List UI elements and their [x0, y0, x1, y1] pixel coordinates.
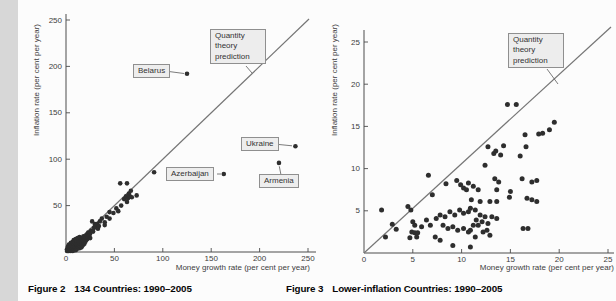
figure3-data-point	[473, 234, 478, 239]
figure3-data-point	[489, 214, 494, 219]
figure3-data-point	[438, 238, 443, 243]
figure3-data-point	[534, 178, 539, 183]
figure3-data-point	[468, 206, 473, 211]
figure3-data-point	[525, 226, 530, 231]
figure3-y-tick-label: 5	[356, 206, 361, 215]
figure3-x-tick-label: 10	[457, 255, 466, 264]
figure3-data-point	[484, 228, 489, 233]
figure3-y-tick-label: 10	[351, 164, 360, 173]
figure3-data-point	[469, 197, 474, 202]
figure2-data-point	[134, 193, 139, 198]
figure3-data-point	[514, 102, 519, 107]
figure3-data-point	[468, 245, 473, 250]
figure3-data-point	[383, 234, 388, 239]
figure3-chart: 0510152025510152025	[320, 0, 616, 301]
figure3-y-tick-label: 15	[351, 122, 360, 131]
figure3-x-tick-label: 5	[411, 255, 416, 264]
figure2-data-point	[100, 216, 105, 221]
figure2-x-tick-label: 150	[205, 254, 219, 263]
figure3-data-point	[476, 187, 481, 192]
figure3-data-point	[438, 213, 443, 218]
figure3-data-point	[483, 214, 488, 219]
figure3-data-point	[468, 228, 473, 233]
figure2-x-tick-label: 100	[156, 254, 170, 263]
figure2-x-tick-label: 50	[110, 254, 119, 263]
figure3-data-point	[498, 153, 503, 158]
figure3-y-axis-label: Inflation rate (per cent per year)	[330, 24, 339, 136]
figure2-x-axis-label: Money growth rate (per cent per year)	[176, 263, 310, 272]
figure3-quantity-theory-callout: Quantity theory prediction	[508, 33, 564, 68]
figure2-caption-number: Figure 2	[28, 283, 65, 294]
figure3-data-point	[461, 226, 466, 231]
figure2-data-point	[88, 236, 93, 241]
figure3-data-point	[426, 173, 431, 178]
figure2-y-tick-label: 100	[49, 155, 63, 164]
figure3-data-point	[483, 163, 488, 168]
figure3-data-point	[454, 178, 459, 183]
figure3-data-point	[471, 184, 476, 189]
figure3-data-point	[461, 211, 466, 216]
figure3-data-point	[494, 199, 499, 204]
figure3-data-point	[455, 228, 460, 233]
figure3-plot: 0510152025510152025	[351, 27, 614, 264]
figure3-data-point	[487, 199, 492, 204]
figure2-caption: Figure 2134 Countries: 1990–2005	[28, 283, 192, 294]
figure3-prediction-line	[364, 27, 611, 253]
figure3-data-point	[523, 132, 528, 137]
figure3-data-point	[485, 221, 490, 226]
figure3-data-point	[485, 144, 490, 149]
figure3-data-point	[447, 209, 452, 214]
figure3-data-point	[379, 207, 384, 212]
figure3-data-point	[443, 181, 448, 186]
figure3-data-point	[473, 207, 478, 212]
figure3-data-point	[492, 176, 497, 181]
figure3-data-point	[508, 189, 513, 194]
figure3-data-point	[518, 153, 523, 158]
figure3-data-point	[494, 187, 499, 192]
figure3-x-tick-label: 0	[362, 255, 367, 264]
figure3-data-point	[390, 222, 395, 227]
figure3-data-point	[452, 213, 457, 218]
figure3-data-point	[540, 131, 545, 136]
figure2-data-point	[111, 211, 116, 216]
figure2-callout-connector	[279, 145, 292, 146]
figure3-data-point	[424, 218, 429, 223]
figure3-data-point	[412, 223, 417, 228]
figure3-y-tick-label: 25	[351, 38, 360, 47]
figure3-data-point	[430, 192, 435, 197]
figure2-y-tick-label: 150	[49, 108, 63, 117]
figure3-caption-title: Lower-inflation Countries: 1990–2005	[332, 283, 502, 294]
figure3-data-point	[547, 127, 552, 132]
figure3-data-point	[520, 176, 525, 181]
figure3-caption: Figure 3Lower-inflation Countries: 1990–…	[286, 283, 502, 294]
figure3-data-point	[464, 187, 469, 192]
figure3-data-point	[524, 144, 529, 149]
figure3-data-point	[496, 180, 501, 185]
figure2-x-tick-label: 200	[253, 254, 267, 263]
figure2-ukraine-callout: Ukraine	[241, 137, 279, 151]
figure2-y-tick-label: 200	[49, 62, 63, 71]
figure3-data-point	[433, 234, 438, 239]
figure3-data-point	[507, 195, 512, 200]
figure2-x-tick-label: 0	[64, 254, 69, 263]
figure2-data-point	[125, 181, 130, 186]
figure3-data-point	[501, 143, 506, 148]
figure3-data-point	[419, 224, 424, 229]
figure2-y-tick-label: 250	[49, 16, 63, 25]
figure2-data-point	[130, 195, 135, 200]
figure3-caption-number: Figure 3	[286, 283, 323, 294]
figure3-data-point	[487, 233, 492, 238]
figure2-data-point	[185, 72, 190, 77]
figure2-data-point	[152, 170, 157, 175]
figure3-data-point	[493, 148, 498, 153]
figure3-data-point	[441, 223, 446, 228]
figure3-data-point	[534, 199, 539, 204]
figure2-belarus-callout: Belarus	[133, 64, 170, 78]
figure3-data-point	[457, 207, 462, 212]
figure3-data-point	[443, 214, 448, 219]
figure3-data-point	[450, 243, 455, 248]
figure2-data-point	[102, 220, 107, 225]
figure3-data-point	[524, 196, 529, 201]
figure2-data-point	[129, 188, 134, 193]
figure2-data-point	[116, 209, 121, 214]
